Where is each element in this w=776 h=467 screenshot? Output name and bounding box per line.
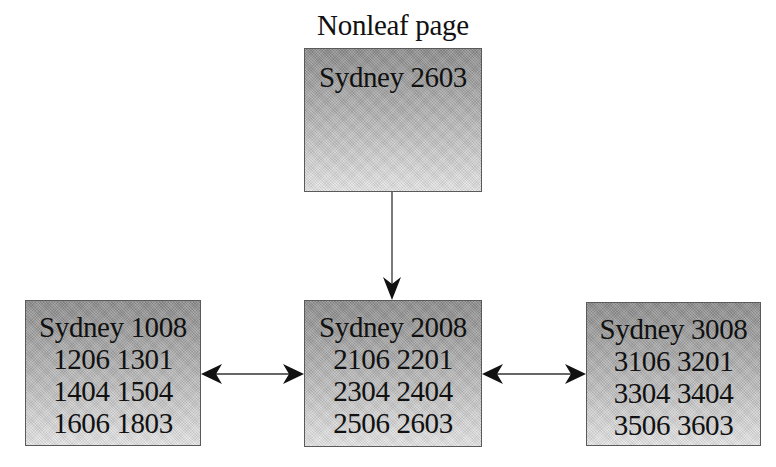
- leaf-middle-header: Sydney 2008: [305, 311, 481, 343]
- arrow-down-icon: [383, 192, 401, 300]
- leaf-node-middle: Sydney 2008 2106 2201 2304 2404 2506 260…: [304, 300, 482, 447]
- leaf-node-left: Sydney 1008 1206 1301 1404 1504 1606 180…: [25, 300, 201, 446]
- leaf-middle-row-2: 2304 2404: [305, 375, 481, 407]
- leaf-right-row-1: 3106 3201: [587, 345, 760, 377]
- leaf-left-row-2: 1404 1504: [26, 375, 200, 407]
- root-node-key: Sydney 2603: [305, 61, 481, 93]
- diagram-title: Nonleaf page: [304, 8, 482, 42]
- leaf-left-row-1: 1206 1301: [26, 343, 200, 375]
- bidirectional-arrow-left-middle-icon: [201, 364, 304, 384]
- leaf-middle-row-1: 2106 2201: [305, 343, 481, 375]
- leaf-left-row-3: 1606 1803: [26, 407, 200, 439]
- leaf-right-row-2: 3304 3404: [587, 377, 760, 409]
- leaf-middle-row-3: 2506 2603: [305, 407, 481, 439]
- leaf-node-right: Sydney 3008 3106 3201 3304 3404 3506 360…: [586, 302, 761, 446]
- leaf-right-row-3: 3506 3603: [587, 409, 760, 441]
- leaf-left-header: Sydney 1008: [26, 311, 200, 343]
- nonleaf-root-node: Sydney 2603: [304, 48, 482, 192]
- leaf-right-header: Sydney 3008: [587, 313, 760, 345]
- bidirectional-arrow-middle-right-icon: [482, 364, 586, 384]
